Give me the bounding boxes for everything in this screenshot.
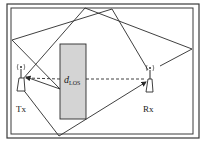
ray-top-a bbox=[22, 8, 192, 80]
tx-label: Tx bbox=[16, 104, 26, 114]
inner-border bbox=[11, 8, 193, 134]
multipath-diagram: dLOS Tx Rx bbox=[0, 0, 203, 147]
rx-label: Rx bbox=[143, 104, 154, 114]
multipath-rays bbox=[12, 8, 192, 136]
outer-border bbox=[7, 4, 199, 138]
